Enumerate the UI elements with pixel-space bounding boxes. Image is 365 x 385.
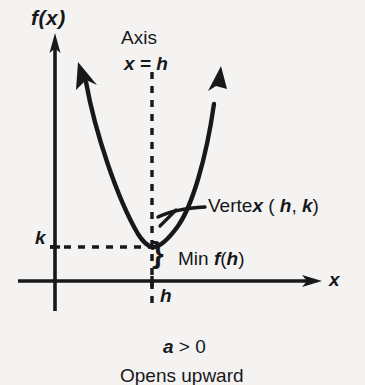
minimum-label: Min f(h): [178, 249, 245, 268]
k-tick-label: k: [35, 228, 46, 247]
x-axis-label: x: [329, 270, 340, 289]
math-var-x: x: [252, 195, 263, 216]
min-brace: }: [152, 238, 164, 268]
y-axis-label: f(x): [31, 7, 66, 28]
parabola-diagram: [0, 0, 365, 385]
math-var-h: h: [280, 195, 292, 216]
h-tick-label: h: [160, 286, 172, 305]
math-var-h: h: [227, 248, 239, 269]
vertex-label: Vertex ( h, k): [208, 196, 319, 215]
math-var-a: a: [163, 336, 174, 357]
coefficient-condition-label: a > 0: [163, 337, 206, 356]
axis-equation-label: x = h: [124, 54, 168, 73]
math-var-k: k: [302, 195, 313, 216]
direction-caption: Opens upward: [120, 366, 244, 385]
axis-of-symmetry-label: Axis: [121, 28, 157, 47]
